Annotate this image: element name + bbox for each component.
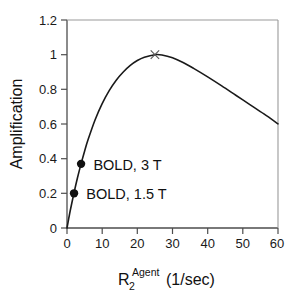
x-tick-label-1: 10 [95, 236, 109, 251]
x-axis-title-base: R [118, 271, 130, 288]
x-tick-label-2: 20 [130, 236, 144, 251]
y-axis-tick-labels: 0 0.2 0.4 0.6 0.8 1 1.2 [39, 13, 57, 236]
curve-annotations: BOLD, 3 T BOLD, 1.5 T [86, 157, 166, 202]
bold-15t-annotation: BOLD, 1.5 T [86, 186, 166, 202]
x-tick-label-6: 60 [270, 236, 284, 251]
y-tick-label-0: 0 [50, 221, 57, 236]
data-markers [70, 50, 159, 197]
x-axis-title-units: (1/sec) [166, 271, 215, 288]
x-axis-title-subscript: 2 [129, 280, 135, 292]
y-tick-label-2: 0.4 [39, 151, 57, 166]
x-axis-ticks [67, 228, 278, 234]
bold-15t-marker [70, 189, 78, 197]
y-axis-title: Amplification [8, 79, 25, 170]
x-axis-title: R 2 Agent (1/sec) [118, 266, 215, 292]
amplification-chart-figure: 0 0.2 0.4 0.6 0.8 1 1.2 0 10 20 30 40 50 [0, 0, 294, 299]
x-tick-label-5: 50 [236, 236, 250, 251]
plot-canvas: 0 0.2 0.4 0.6 0.8 1 1.2 0 10 20 30 40 50 [0, 0, 294, 299]
y-axis-ticks [61, 20, 67, 228]
bold-3t-marker [77, 160, 85, 168]
y-tick-label-5: 1 [50, 47, 57, 62]
x-tick-label-3: 30 [165, 236, 179, 251]
y-tick-label-6: 1.2 [39, 13, 57, 28]
bold-3t-annotation: BOLD, 3 T [93, 157, 161, 173]
x-tick-label-0: 0 [63, 236, 70, 251]
x-axis-tick-labels: 0 10 20 30 40 50 60 [63, 236, 284, 251]
y-tick-label-3: 0.6 [39, 117, 57, 132]
x-tick-label-4: 40 [200, 236, 214, 251]
x-axis-title-superscript: Agent [132, 266, 160, 278]
y-tick-label-1: 0.2 [39, 186, 57, 201]
y-tick-label-4: 0.8 [39, 82, 57, 97]
